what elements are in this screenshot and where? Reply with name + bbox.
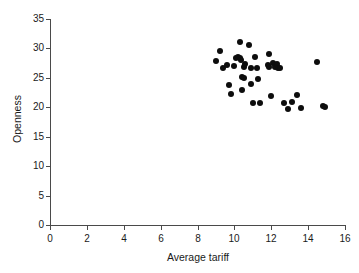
y-axis-title: Openness bbox=[11, 69, 23, 169]
y-tick-label-wrap: 5 bbox=[12, 191, 44, 201]
x-tick-mark bbox=[308, 226, 309, 230]
x-tick-label: 16 bbox=[333, 233, 357, 244]
data-point bbox=[289, 99, 295, 105]
data-point bbox=[242, 61, 248, 67]
data-point bbox=[270, 60, 276, 66]
data-point bbox=[248, 65, 254, 71]
data-point bbox=[248, 81, 254, 87]
x-tick-mark bbox=[271, 226, 272, 230]
x-tick-mark bbox=[124, 226, 125, 230]
data-point bbox=[314, 59, 320, 65]
data-point bbox=[294, 92, 300, 98]
data-point bbox=[275, 65, 281, 71]
data-point bbox=[322, 104, 328, 110]
y-tick-label: 30 bbox=[16, 43, 44, 53]
y-tick-label-wrap: 30 bbox=[12, 43, 44, 53]
data-point bbox=[272, 64, 278, 70]
data-point bbox=[233, 55, 239, 61]
y-tick-mark bbox=[46, 196, 50, 197]
x-tick-label: 8 bbox=[186, 233, 210, 244]
data-point bbox=[217, 48, 223, 54]
data-point bbox=[277, 65, 283, 71]
data-point bbox=[268, 93, 274, 99]
x-tick-label: 4 bbox=[112, 233, 136, 244]
y-tick-mark bbox=[46, 107, 50, 108]
x-tick-label: 0 bbox=[38, 233, 62, 244]
y-tick-label-wrap: 35 bbox=[12, 14, 44, 24]
data-point bbox=[239, 74, 245, 80]
x-tick-mark bbox=[87, 226, 88, 230]
x-tick-mark bbox=[345, 226, 346, 230]
data-point bbox=[254, 65, 260, 71]
data-point bbox=[228, 91, 234, 97]
data-point bbox=[246, 42, 252, 48]
y-tick-label: 5 bbox=[16, 191, 44, 201]
y-tick-mark bbox=[46, 137, 50, 138]
data-point bbox=[320, 103, 326, 109]
x-axis-title: Average tariff bbox=[50, 251, 346, 263]
data-point bbox=[266, 64, 272, 70]
data-point bbox=[274, 61, 280, 67]
data-point bbox=[237, 55, 243, 61]
x-tick-label: 2 bbox=[75, 233, 99, 244]
data-point bbox=[285, 106, 291, 112]
data-point bbox=[255, 76, 261, 82]
data-point bbox=[250, 100, 256, 106]
x-tick-mark bbox=[161, 226, 162, 230]
x-tick-label: 6 bbox=[149, 233, 173, 244]
y-tick-label-wrap: 0 bbox=[12, 220, 44, 230]
data-point bbox=[238, 57, 244, 63]
x-tick-mark bbox=[234, 226, 235, 230]
data-point bbox=[265, 62, 271, 68]
data-point bbox=[298, 105, 304, 111]
data-point bbox=[235, 54, 241, 60]
data-point bbox=[237, 39, 243, 45]
data-point bbox=[224, 62, 230, 68]
y-tick-mark bbox=[46, 48, 50, 49]
y-tick-mark bbox=[46, 166, 50, 167]
data-point bbox=[281, 100, 287, 106]
data-point bbox=[241, 75, 247, 81]
y-axis-line bbox=[50, 19, 51, 226]
x-tick-label: 14 bbox=[296, 233, 320, 244]
x-tick-label: 12 bbox=[259, 233, 283, 244]
data-point bbox=[266, 51, 272, 57]
y-tick-label: 35 bbox=[16, 14, 44, 24]
data-point bbox=[257, 100, 263, 106]
x-tick-mark bbox=[50, 226, 51, 230]
data-point bbox=[241, 64, 247, 70]
y-tick-mark bbox=[46, 78, 50, 79]
y-tick-mark bbox=[46, 19, 50, 20]
scatter-chart: 05101520253035 0246810121416 Openness Av… bbox=[0, 0, 359, 273]
data-point bbox=[252, 54, 258, 60]
data-point bbox=[220, 65, 226, 71]
x-tick-label: 10 bbox=[222, 233, 246, 244]
data-point bbox=[231, 63, 237, 69]
y-tick-label: 0 bbox=[16, 220, 44, 230]
x-tick-mark bbox=[198, 226, 199, 230]
data-point bbox=[213, 58, 219, 64]
data-point bbox=[226, 82, 232, 88]
data-point bbox=[239, 87, 245, 93]
